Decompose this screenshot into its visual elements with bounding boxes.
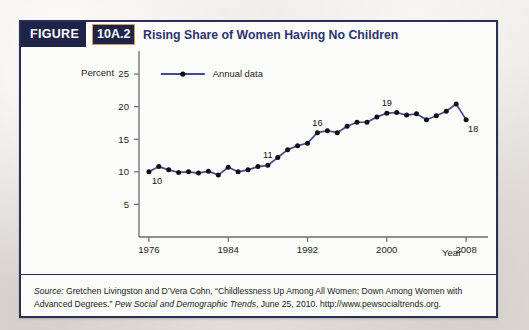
svg-text:2000: 2000: [376, 244, 397, 255]
figure-number-badge: 10A.2: [92, 24, 135, 45]
figure-header: FIGURE 10A.2 Rising Share of Women Havin…: [21, 22, 496, 47]
chart-legend: Annual data: [161, 68, 264, 79]
source-label: Source:: [34, 286, 64, 296]
legend-label-annual-data: Annual data: [213, 68, 264, 79]
figure-badge-label: FIGURE: [21, 22, 86, 47]
figure-title: Rising Share of Women Having No Children: [143, 22, 398, 47]
svg-text:10: 10: [152, 176, 162, 186]
source-text-part2: , June 25, 2010. http://www.pewsocialtre…: [256, 299, 441, 309]
svg-text:1976: 1976: [138, 244, 159, 255]
y-tick-marks: [134, 74, 139, 204]
svg-text:5: 5: [124, 199, 129, 210]
source-divider: [21, 274, 496, 275]
svg-text:25: 25: [118, 68, 129, 79]
figure-box: FIGURE 10A.2 Rising Share of Women Havin…: [19, 20, 498, 318]
svg-text:10: 10: [118, 166, 129, 177]
line-chart-plot: 510152025 19761984199220002008 101116191…: [21, 47, 496, 274]
y-tick-labels: 510152025: [118, 68, 129, 209]
svg-text:15: 15: [118, 134, 129, 145]
svg-text:2008: 2008: [455, 244, 476, 255]
source-note: Source: Gretchen Livingston and D’Vera C…: [34, 285, 485, 310]
svg-text:19: 19: [382, 98, 392, 108]
x-tick-labels: 19761984199220002008: [138, 244, 477, 255]
x-tick-marks: [149, 237, 466, 242]
svg-text:20: 20: [118, 101, 129, 112]
data-point-markers: [146, 102, 468, 178]
source-publication: Pew Social and Demographic Trends: [115, 299, 256, 309]
svg-text:1992: 1992: [297, 244, 318, 255]
svg-text:16: 16: [312, 118, 322, 128]
svg-text:18: 18: [468, 124, 478, 134]
svg-text:1984: 1984: [218, 244, 240, 255]
legend-marker-swatch: [180, 71, 185, 76]
svg-text:11: 11: [263, 150, 273, 160]
chart-area: Percent Year 510152025 19761984199220002…: [21, 47, 496, 274]
